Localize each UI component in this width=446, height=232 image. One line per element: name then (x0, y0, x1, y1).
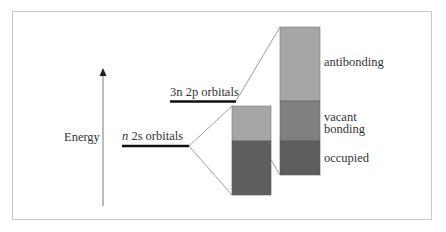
label-2s: n 2s orbitals (122, 130, 183, 143)
connector (271, 160, 280, 175)
connector (189, 146, 232, 195)
energy-label: Energy (64, 131, 100, 144)
arrow-up-icon (100, 68, 107, 76)
bonding-label: bonding (324, 123, 365, 136)
connector (189, 106, 232, 146)
label-2s-text: 2s orbitals (128, 129, 183, 143)
orbital-diagram (0, 0, 446, 232)
band-small-upper (232, 106, 271, 141)
label-2p: 3n 2p orbitals (170, 86, 239, 99)
connector (236, 27, 280, 101)
band-small-lower (232, 141, 271, 195)
band-occupied (280, 141, 320, 175)
label-2p-text: 2p orbitals (183, 85, 239, 99)
label-2p-prefix: 3n (170, 85, 183, 99)
antibonding-label: antibonding (324, 56, 384, 69)
band-vacant-bonding (280, 101, 320, 141)
band-antibonding (280, 27, 320, 101)
occupied-label: occupied (324, 152, 369, 165)
